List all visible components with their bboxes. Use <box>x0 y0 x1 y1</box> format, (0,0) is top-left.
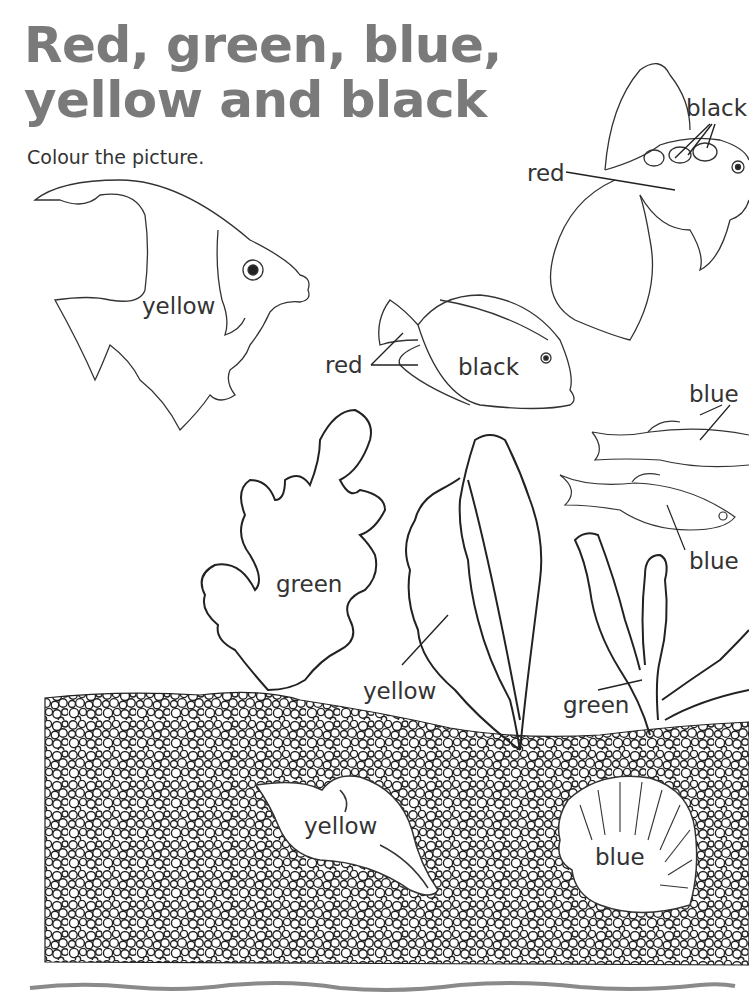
bottom-wavy-rule <box>30 983 735 990</box>
label-small-fish-bottom: blue <box>689 550 739 573</box>
label-branch-weed: green <box>563 694 629 717</box>
label-goldfish-body: red <box>527 162 565 185</box>
label-small-fish-top: blue <box>689 383 739 406</box>
label-angelfish: yellow <box>142 295 215 318</box>
tang-fish <box>371 295 574 409</box>
small-fish-top <box>592 405 749 467</box>
label-conch-shell: yellow <box>304 815 377 838</box>
small-fish-bottom <box>560 474 735 550</box>
label-scallop-shell: blue <box>595 846 645 869</box>
label-goldfish-spots: black <box>686 97 747 120</box>
label-tall-weed: yellow <box>363 680 436 703</box>
frilly-seaweed <box>202 410 385 690</box>
leader-lines <box>402 615 642 690</box>
label-tang-fins: red <box>325 354 363 377</box>
label-frilly-weed: green <box>276 573 342 596</box>
label-tang-body: black <box>458 356 519 379</box>
